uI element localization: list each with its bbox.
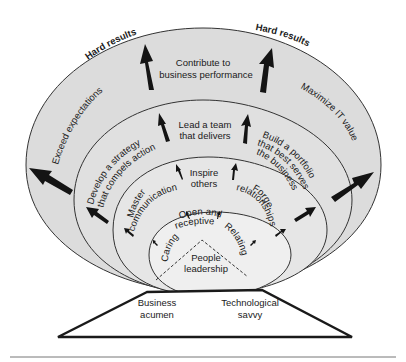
people-line2: leadership bbox=[184, 263, 228, 274]
inspire-line2: others bbox=[191, 178, 218, 189]
technological-line1: Technological bbox=[221, 297, 279, 308]
inspire-line1: Inspire bbox=[190, 167, 219, 178]
contribute-line1: Contribute to bbox=[176, 57, 230, 68]
people-line1: People bbox=[191, 252, 221, 263]
contribute-line2: business performance bbox=[159, 69, 252, 80]
business-line1: Business bbox=[138, 297, 177, 308]
business-line2: acumen bbox=[140, 309, 174, 320]
leadership-diagram: Hard results Hard results Contribute to … bbox=[0, 0, 406, 362]
foundation-trapezoid bbox=[58, 290, 352, 337]
lead-line2: that delivers bbox=[179, 130, 230, 141]
technological-line2: savvy bbox=[238, 309, 263, 320]
lead-line1: Lead a team bbox=[179, 119, 232, 130]
